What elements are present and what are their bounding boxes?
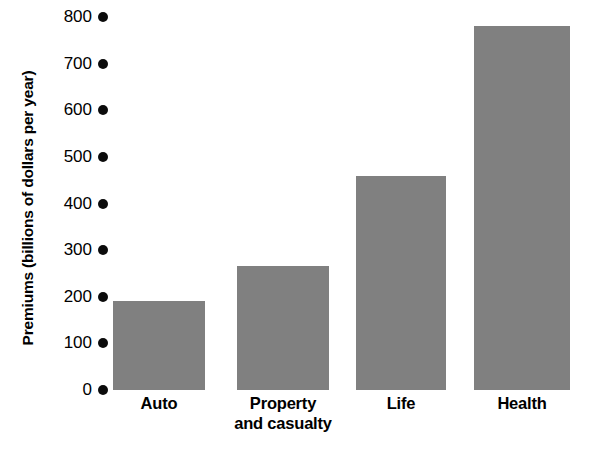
x-axis-label-line: and casualty — [197, 413, 369, 433]
bar — [356, 176, 446, 390]
bar-chart: Premiums (billions of dollars per year) … — [0, 0, 598, 471]
x-axis-label: Health — [434, 393, 598, 413]
bar — [237, 266, 329, 390]
bar — [113, 301, 205, 390]
bar — [474, 26, 570, 390]
x-axis-label-line: Health — [434, 393, 598, 413]
